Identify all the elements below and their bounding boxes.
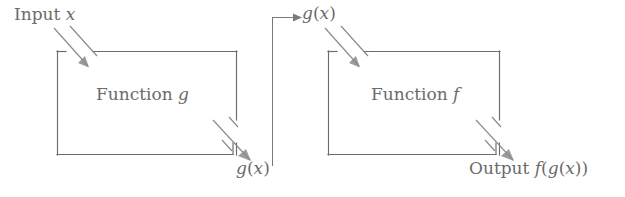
label-function-f-prefix: Function bbox=[371, 84, 453, 104]
label-output: Output f(g(x)) bbox=[469, 160, 588, 177]
label-gx-bottom-fn: g bbox=[236, 158, 247, 178]
label-g-of-x-bottom: g(x) bbox=[236, 160, 270, 177]
label-gx-bottom-arg: x bbox=[254, 158, 264, 178]
label-function-f: Function f bbox=[371, 86, 459, 103]
connector-g-of-x-feed bbox=[272, 14, 302, 167]
label-gx-top-close: ) bbox=[329, 3, 336, 23]
arrow-g-out-stroke-c bbox=[222, 140, 232, 151]
label-input-prefix: Input bbox=[14, 4, 66, 24]
label-input-x: Input x bbox=[14, 6, 75, 23]
arrow-gx-f-stroke-b bbox=[341, 26, 368, 56]
arrow-gx-into-f bbox=[325, 26, 368, 68]
label-function-g: Function g bbox=[96, 86, 189, 103]
label-output-inner-fn: g bbox=[548, 158, 559, 178]
label-g-of-x-top: g(x) bbox=[302, 5, 336, 22]
label-output-close1: ) bbox=[582, 158, 589, 178]
arrow-input-head bbox=[78, 56, 89, 68]
label-output-arg: x bbox=[565, 158, 575, 178]
arrow-input-into-g bbox=[54, 26, 97, 68]
arrow-input-stroke-b bbox=[70, 26, 97, 56]
label-gx-top-arg: x bbox=[320, 3, 330, 23]
function-composition-diagram: Input x Function g g(x) g(x) Function f … bbox=[0, 0, 625, 197]
label-gx-top-fn: g bbox=[302, 3, 313, 23]
label-gx-bottom-close: ) bbox=[263, 158, 270, 178]
arrow-gx-f-head bbox=[349, 56, 360, 68]
label-output-prefix: Output bbox=[469, 158, 535, 178]
label-input-variable: x bbox=[66, 4, 76, 24]
connector-arrowhead bbox=[293, 14, 302, 22]
label-output-close2: ) bbox=[575, 158, 582, 178]
label-gx-bottom-open: ( bbox=[247, 158, 254, 178]
label-gx-top-open: ( bbox=[313, 3, 320, 23]
arrow-f-out-stroke-c bbox=[485, 140, 495, 151]
label-function-g-prefix: Function bbox=[96, 84, 178, 104]
label-output-open1: ( bbox=[541, 158, 548, 178]
label-function-g-variable: g bbox=[178, 84, 189, 104]
label-function-f-variable: f bbox=[453, 84, 459, 104]
